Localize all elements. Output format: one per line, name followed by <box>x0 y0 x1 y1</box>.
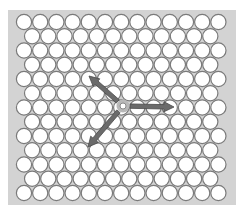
lattice-site <box>162 14 177 29</box>
lattice-site <box>49 71 64 86</box>
lattice-site <box>114 185 129 200</box>
lattice-site <box>65 100 80 115</box>
lattice-site <box>49 14 64 29</box>
lattice-site <box>146 43 161 58</box>
lattice-site <box>138 86 153 101</box>
lattice-site <box>73 29 88 44</box>
lattice-site <box>178 157 193 172</box>
lattice-site <box>170 143 185 158</box>
lattice-site <box>89 29 104 44</box>
lattice-site <box>178 185 193 200</box>
lattice-site <box>81 157 96 172</box>
lattice-site <box>114 157 129 172</box>
lattice-site <box>89 57 104 72</box>
lattice-site <box>122 57 137 72</box>
lattice-site <box>195 185 210 200</box>
lattice-site <box>130 43 145 58</box>
lattice-site <box>211 128 226 143</box>
lattice-site <box>97 43 112 58</box>
lattice-site <box>16 71 31 86</box>
lattice-site <box>16 157 31 172</box>
lattice-site <box>146 128 161 143</box>
lattice-site <box>130 157 145 172</box>
lattice-site <box>41 143 56 158</box>
lattice-site <box>65 185 80 200</box>
lattice-site <box>65 43 80 58</box>
lattice-site <box>162 71 177 86</box>
lattice-site <box>16 185 31 200</box>
lattice-site <box>97 14 112 29</box>
lattice-site <box>195 43 210 58</box>
lattice-canvas <box>0 0 248 216</box>
lattice-site <box>203 86 218 101</box>
lattice-site <box>178 100 193 115</box>
lattice-site <box>195 100 210 115</box>
lattice-site <box>154 86 169 101</box>
lattice-site <box>24 86 39 101</box>
lattice-site <box>146 14 161 29</box>
lattice-site <box>195 14 210 29</box>
lattice-site <box>33 71 48 86</box>
lattice-site <box>57 29 72 44</box>
lattice-site <box>130 128 145 143</box>
lattice-site <box>122 171 137 186</box>
lattice-site <box>106 143 121 158</box>
lattice-site <box>154 171 169 186</box>
lattice-site <box>154 114 169 129</box>
lattice-site <box>154 143 169 158</box>
lattice-site <box>203 114 218 129</box>
lattice-site <box>57 171 72 186</box>
lattice-site <box>106 57 121 72</box>
lattice-site <box>178 71 193 86</box>
lattice-site <box>41 86 56 101</box>
lattice-site <box>81 43 96 58</box>
lattice-site <box>130 14 145 29</box>
lattice-site <box>73 143 88 158</box>
lattice-site <box>16 43 31 58</box>
lattice-site <box>65 14 80 29</box>
lattice-site <box>211 157 226 172</box>
lattice-site <box>195 71 210 86</box>
lattice-site <box>65 71 80 86</box>
lattice-site <box>106 171 121 186</box>
origin-point <box>117 100 130 113</box>
lattice-site <box>81 100 96 115</box>
lattice-site <box>211 185 226 200</box>
lattice-site <box>211 14 226 29</box>
lattice-site <box>122 114 137 129</box>
lattice-site <box>138 29 153 44</box>
lattice-site <box>203 57 218 72</box>
lattice-site <box>33 157 48 172</box>
lattice-site <box>65 157 80 172</box>
lattice-site <box>114 71 129 86</box>
lattice-site <box>24 171 39 186</box>
lattice-diagram <box>0 0 248 216</box>
lattice-site <box>41 29 56 44</box>
lattice-site <box>187 143 202 158</box>
lattice-site <box>178 14 193 29</box>
lattice-site <box>211 100 226 115</box>
lattice-site <box>73 57 88 72</box>
origin-dot <box>120 103 126 109</box>
lattice-site <box>122 86 137 101</box>
lattice-site <box>16 100 31 115</box>
lattice-site <box>138 171 153 186</box>
lattice-site <box>41 171 56 186</box>
lattice-site <box>41 57 56 72</box>
lattice-site <box>97 185 112 200</box>
lattice-site <box>138 143 153 158</box>
lattice-site <box>33 185 48 200</box>
lattice-site <box>203 29 218 44</box>
lattice-site <box>114 128 129 143</box>
lattice-site <box>73 171 88 186</box>
lattice-site <box>49 43 64 58</box>
lattice-site <box>41 114 56 129</box>
lattice-site <box>73 114 88 129</box>
lattice-site <box>114 14 129 29</box>
lattice-site <box>187 29 202 44</box>
lattice-site <box>130 185 145 200</box>
lattice-site <box>187 57 202 72</box>
lattice-site <box>114 43 129 58</box>
lattice-site <box>33 128 48 143</box>
lattice-site <box>57 114 72 129</box>
